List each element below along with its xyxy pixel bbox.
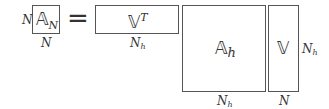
matrix-v-box: 𝕍 xyxy=(268,5,299,92)
equals-sign: = xyxy=(67,5,89,31)
a-h-col-label: Nh xyxy=(217,95,233,109)
matrix-v-transpose-box: 𝕍T xyxy=(95,5,179,34)
matrix-v-symbol: 𝕍 xyxy=(277,40,289,57)
matrix-v-transpose-symbol: 𝕍T xyxy=(128,12,148,31)
lhs-col-label: N xyxy=(41,37,52,49)
v-transpose-col-label: Nh xyxy=(130,37,146,51)
v-row-label: Nh xyxy=(302,43,318,57)
matrix-a-h-box: 𝔸h xyxy=(182,5,266,92)
v-col-label: N xyxy=(279,95,290,107)
matrix-a-n-symbol: 𝔸N xyxy=(36,11,58,31)
lhs-row-label: N xyxy=(22,14,33,26)
matrix-a-h-symbol: 𝔸h xyxy=(215,40,236,59)
matrix-a-n-box: 𝔸N xyxy=(32,5,60,34)
